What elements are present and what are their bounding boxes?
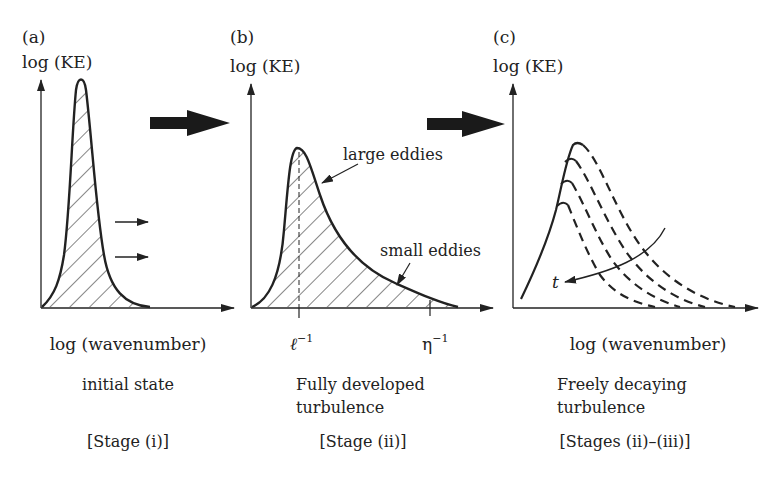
- panel-b-caption-line-2: turbulence: [296, 398, 384, 417]
- panel-a-xlabel: log (wavenumber): [50, 334, 207, 354]
- transition-arrow-1: [150, 110, 230, 136]
- panel-c-dashed-curve-2: [576, 161, 705, 307]
- panel-c-caption-line-1: Freely decaying: [557, 375, 687, 394]
- transition-arrow-2: [427, 111, 505, 137]
- panel-c-tag: (c): [493, 27, 516, 47]
- panel-b-caption-line-1: Fully developed: [296, 375, 425, 394]
- panel-a: (a) log (KE) log (wavenumber) initial st…: [22, 27, 234, 451]
- turbulence-spectrum-figure: (a) log (KE) log (wavenumber) initial st…: [0, 0, 782, 484]
- panel-c: (c) log (KE) t log (wavenumber) Freely d…: [493, 27, 758, 451]
- panel-a-ylabel: log (KE): [22, 52, 92, 72]
- panel-a-caption: initial state: [82, 375, 174, 394]
- panel-c-xlabel: log (wavenumber): [570, 334, 727, 354]
- panel-a-stage: [Stage (i)]: [87, 432, 169, 451]
- panel-c-hook-4: [557, 203, 568, 206]
- panel-c-dashed-curve-4: [568, 205, 655, 307]
- panel-c-ylabel: log (KE): [493, 56, 563, 76]
- pointer-large-eddies: [322, 164, 358, 183]
- annotation-large-eddies: large eddies: [343, 145, 443, 164]
- panel-b: (b) log (KE) ℓ−1 η−1 large eddies small …: [230, 27, 493, 451]
- panel-b-tick-label-ell: ℓ−1: [290, 332, 313, 354]
- panel-b-tag: (b): [230, 27, 254, 47]
- annotation-small-eddies: small eddies: [380, 241, 481, 260]
- panel-c-caption-line-2: turbulence: [557, 398, 645, 417]
- panel-b-tick-label-eta: η−1: [422, 332, 448, 354]
- panel-b-ylabel: log (KE): [230, 56, 300, 76]
- panel-c-time-label: t: [552, 272, 559, 292]
- panel-a-tag: (a): [22, 27, 45, 47]
- panel-c-dashed-curve-1: [583, 145, 735, 307]
- panel-c-hook-3: [561, 181, 572, 184]
- panel-a-hatched-area: [30, 70, 170, 310]
- pointer-small-eddies: [397, 263, 410, 285]
- panel-b-stage: [Stage (ii)]: [320, 432, 407, 451]
- panel-c-stage: [Stages (ii)–(iii)]: [560, 432, 691, 451]
- panel-c-hook-2: [565, 159, 576, 162]
